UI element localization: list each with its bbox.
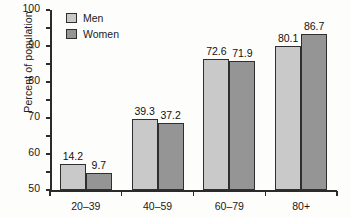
x-tick [49,191,50,196]
y-tick-label: 50 [14,182,40,194]
x-tick-label: 20–39 [50,200,122,212]
bar-men-80+ [275,46,301,190]
y-tick-label: 100 [14,2,40,14]
y-axis-line [50,10,52,190]
bar-value-label: 71.9 [224,47,260,59]
y-tick: 70 [46,63,50,64]
x-tick-label: 60–79 [194,200,266,212]
x-tick [121,191,122,196]
bar-women-60–79 [229,61,255,190]
bar-men-60–79 [203,59,229,190]
bar-value-label: 37.2 [153,109,189,121]
bar-women-40–59 [158,123,184,190]
legend-label: Women [83,28,119,40]
legend: MenWomen [66,11,146,43]
y-tick: 30 [46,135,50,136]
y-tick-label: 70 [14,110,40,122]
bar-chart: Percent of population 010203040506070809… [0,0,351,218]
bar-value-label: 9.7 [81,159,117,171]
y-tick-label: 60 [14,146,40,158]
x-tick [265,191,266,196]
legend-swatch-women-icon [66,29,77,39]
y-tick-label: 80 [14,74,40,86]
legend-label: Men [83,12,103,24]
legend-swatch-men-icon [66,13,77,23]
bar-women-80+ [301,34,327,190]
y-tick: 10 [46,171,50,172]
x-tick [336,191,337,196]
bar-men-40–59 [132,119,158,190]
x-tick [193,191,194,196]
legend-item-women: Women [66,27,146,41]
y-tick: 20 [46,153,50,154]
y-tick-label: 90 [14,38,40,50]
y-tick: 50 [46,99,50,100]
y-tick: 80 [46,45,50,46]
y-tick: 60 [46,81,50,82]
y-tick: 90 [46,27,50,28]
y-tick: 40 [46,117,50,118]
legend-item-men: Men [66,11,146,25]
bar-women-20–39 [86,173,112,190]
y-tick: 100 [46,9,50,10]
x-tick-label: 40–59 [122,200,194,212]
x-tick-label: 80+ [265,200,337,212]
bar-value-label: 86.7 [296,20,332,32]
